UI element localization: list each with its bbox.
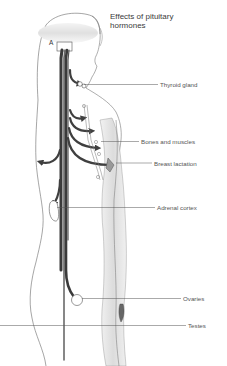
pituitary-marker-label: A: [49, 39, 53, 46]
label-adrenal-cortex: Adrenal cortex: [157, 204, 197, 211]
label-testes: Testes: [188, 322, 206, 329]
vessel-bundle: [61, 50, 74, 360]
label-thyroid-gland: Thyroid gland: [160, 81, 198, 88]
label-ovaries: Ovaries: [183, 295, 204, 302]
label-breast-lactation: Breast lactation: [154, 160, 197, 167]
torso-shading: [100, 118, 126, 366]
ovary: [72, 295, 83, 306]
diagram-title: Effects of pituitary hormones: [110, 12, 173, 30]
label-bones-and-muscles: Bones and muscles: [141, 138, 195, 145]
brain-region: [38, 23, 98, 43]
adrenal-cortex: [49, 201, 58, 221]
spine: [82, 104, 103, 180]
thyroid-gland: [78, 82, 86, 88]
pituitary-diagram: [0, 0, 227, 366]
hormone-arrows: [40, 70, 110, 204]
